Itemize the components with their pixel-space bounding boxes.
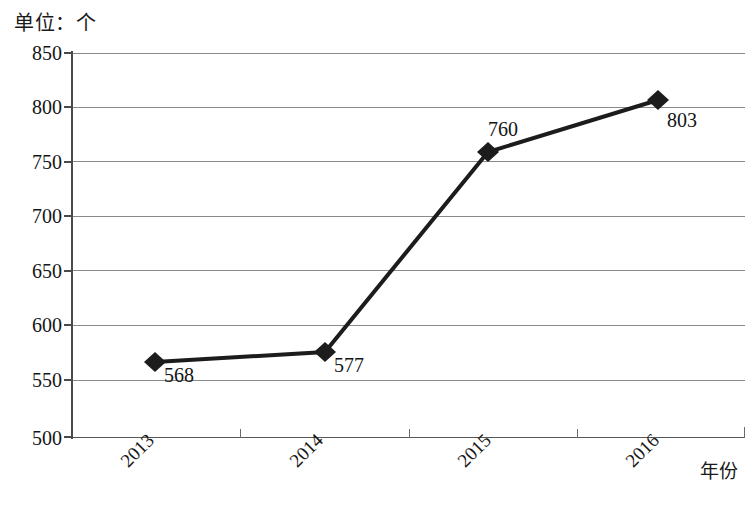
x-axis-title: 年份	[700, 461, 738, 483]
data-label: 568	[164, 365, 194, 385]
data-label: 803	[667, 110, 697, 130]
line-chart: 单位：个 850 800 750 700 650 600 550 500	[0, 0, 756, 517]
data-point-marker	[144, 352, 166, 372]
data-point-marker	[647, 90, 669, 110]
data-label: 577	[334, 355, 364, 375]
data-label: 760	[488, 119, 518, 139]
series-line	[155, 100, 658, 362]
